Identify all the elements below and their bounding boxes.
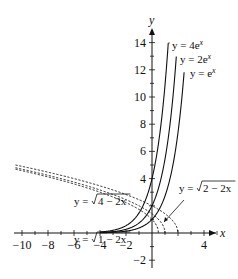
svg-text:1 − 2x: 1 − 2x bbox=[98, 233, 127, 245]
y-tick-label: 12 bbox=[134, 63, 146, 77]
svg-text:y =: y = bbox=[74, 195, 88, 207]
svg-text:2 − 2x: 2 − 2x bbox=[203, 182, 232, 194]
label-2ex: y = 2ex bbox=[180, 52, 212, 65]
svg-text:y =: y = bbox=[179, 182, 193, 194]
svg-text:4 − 2x: 4 − 2x bbox=[98, 195, 127, 207]
x-tick-label: 4 bbox=[201, 238, 207, 252]
y-tick-label: 6 bbox=[140, 144, 146, 158]
y-tick-label: 4 bbox=[140, 172, 146, 186]
label-sqrt-1-2x: y = 1 − 2x bbox=[74, 232, 130, 245]
x-tick-label: −8 bbox=[42, 238, 55, 252]
y-tick-label: 8 bbox=[140, 117, 146, 131]
y-axis-label: y bbox=[148, 13, 155, 27]
function-graph: xy −10−8−6−4−24−2468101214 y = 4exy = 2e… bbox=[0, 0, 238, 279]
label-4ex: y = 4ex bbox=[172, 38, 204, 51]
label-sqrt-2-2x: y = 2 − 2x bbox=[179, 181, 235, 194]
curve-sqrt-4-2x- bbox=[16, 165, 179, 233]
x-axis-arrow-icon bbox=[209, 230, 216, 236]
x-axis-label: x bbox=[219, 226, 226, 240]
curve-labels: y = 4exy = 2exy = exy = 4 − 2xy = 2 − 2x… bbox=[74, 38, 235, 245]
y-tick-label: −2 bbox=[133, 253, 146, 267]
y-axis-arrow-icon bbox=[149, 28, 155, 35]
svg-text:y =: y = bbox=[74, 233, 88, 245]
label-ex: y = ex bbox=[190, 66, 216, 79]
y-tick-label: 10 bbox=[134, 90, 146, 104]
label-sqrt-4-2x: y = 4 − 2x bbox=[74, 194, 130, 207]
x-tick-label: −10 bbox=[13, 238, 32, 252]
y-tick-label: 14 bbox=[134, 36, 146, 50]
axes: xy bbox=[14, 13, 226, 268]
